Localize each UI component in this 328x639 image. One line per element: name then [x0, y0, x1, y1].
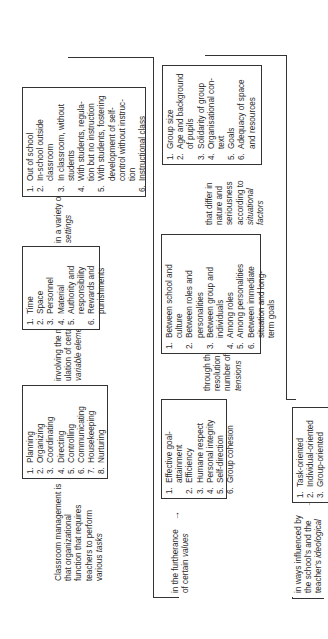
- list-item: 6.Between immediatesituation and long-te…: [247, 239, 278, 349]
- list-item: 4.Material: [57, 251, 67, 325]
- bracket-hook-left: [286, 399, 296, 400]
- settings-box: 1.Out of school 2.In-school outsideclass…: [22, 87, 146, 197]
- list-item: 5.With students, fosteringdevelopment of…: [97, 92, 138, 192]
- classroom-management-diagram: Classroom management is that organizatio…: [0, 0, 328, 639]
- list-item: 2.In-school outsideclassroom: [36, 92, 56, 192]
- intro-text: Classroom management is that organizatio…: [54, 471, 105, 581]
- list-item: 5.Goals: [227, 70, 237, 160]
- list-item: 5.Self-direction: [216, 404, 226, 494]
- list-item: 6.Group cohesion: [226, 404, 236, 494]
- bracket-hook-left: [153, 597, 179, 598]
- list-item: 4.With students, regula-tion but no inst…: [77, 92, 97, 192]
- factors-connector-text: that differ in nature and seriousness ac…: [205, 155, 266, 225]
- variable-elements-box: 1.Time 2.Space 3.Personnel 4.Material 5.…: [22, 246, 100, 330]
- list-item: 4.Personal integrity: [206, 404, 216, 494]
- list-item: 7.Housekeeping: [87, 390, 97, 474]
- list-item: 4.Among roles: [226, 239, 236, 349]
- situational-factors-box: 1.Group size 2.Age and backgroundof pupi…: [162, 65, 262, 165]
- arrow-icon: →: [171, 511, 181, 520]
- list-item: 2.Space: [36, 251, 46, 325]
- list-item: 2.Age and backgroundof pupils: [176, 70, 196, 160]
- ideology-bracket-left: [292, 598, 324, 599]
- list-item: 1.Between school andculture: [165, 239, 185, 349]
- list-item: 6.Communicating: [77, 390, 87, 474]
- list-item: 2.Between roles andpersonalities: [185, 239, 205, 349]
- list-item: 6.Instructional class: [138, 92, 148, 192]
- values-box: 1.Effective goal-attainment 2.Efficiency…: [161, 399, 227, 499]
- bracket-line: [286, 55, 287, 400]
- tensions-box: 1.Between school andculture 2.Between ro…: [161, 234, 261, 354]
- list-item: 5.Controlling: [67, 390, 77, 474]
- values-connector-text: in the furtherance of certain values →: [171, 503, 191, 593]
- bracket-hook-right: [68, 57, 154, 58]
- ideology-connector-text: in ways influenced by the school's and t…: [294, 493, 325, 593]
- list-item: 2.Individual-oriented: [306, 412, 316, 498]
- tasks-box: 1.Planning 2.Organizing 3.Coordinating 4…: [22, 385, 108, 479]
- list-item: 5.Among personalities: [236, 239, 246, 349]
- list-item: 6.Adequacy of spaceand resources: [237, 70, 257, 160]
- bracket-line: [153, 57, 154, 598]
- list-item: 3.Personnel: [46, 251, 56, 325]
- list-item: 3.Between group andindividuals: [206, 239, 226, 349]
- list-item: 8.Nurturing: [97, 390, 107, 474]
- list-item: 4.Organisational con-text: [207, 70, 227, 160]
- list-item: 1.Task-oriented: [296, 412, 306, 498]
- list-item: 1.Effective goal-attainment: [165, 404, 185, 494]
- list-item: 3.Solidarity of group: [197, 70, 207, 160]
- list-item: 1.Out of school: [26, 92, 36, 192]
- list-item: 1.Time: [26, 251, 36, 325]
- list-item: 2.Organizing: [36, 390, 46, 474]
- list-item: 4.Directing: [57, 390, 67, 474]
- list-item: 3.Humane respect: [196, 404, 206, 494]
- list-item: 3.Coordinating: [46, 390, 56, 474]
- list-item: 1.Group size: [166, 70, 176, 160]
- list-item: 3.Group-oriented: [316, 412, 326, 498]
- list-item: 6.Rewards andpunishments: [87, 251, 107, 325]
- list-item: 3.In classroom, withoutstudents: [57, 92, 77, 192]
- ideology-box: 1.Task-oriented 2.Individual-oriented 3.…: [292, 407, 328, 503]
- list-item: 1.Planning: [26, 390, 36, 474]
- bracket-hook-right: [205, 55, 287, 56]
- list-item: 2.Efficiency: [185, 404, 195, 494]
- list-item: 5.Authority andresponsibility: [67, 251, 87, 325]
